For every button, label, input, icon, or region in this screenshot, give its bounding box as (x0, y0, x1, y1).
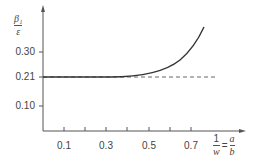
y-label-denominator: ε (16, 27, 20, 37)
x-axis-arrow-icon (239, 129, 246, 133)
y-tick-label: 0.21 (5, 72, 35, 82)
x-label-lhs-numerator: 1 (214, 134, 220, 144)
y-tick-label: 0.30 (5, 47, 35, 57)
x-tick-label: 0.1 (52, 141, 76, 151)
y-ticks (39, 52, 43, 106)
x-label-lhs: 1 w (213, 134, 220, 157)
equals-sign: = (222, 140, 228, 151)
x-label-rhs-numerator: a (230, 134, 235, 144)
x-label-rhs-denominator: b (230, 147, 235, 157)
x-ticks (64, 127, 191, 131)
x-axis-label: 1 w = a b (213, 134, 235, 157)
x-tick-label: 0.3 (94, 141, 118, 151)
y-tick-label: 0.10 (5, 101, 35, 111)
data-curve (43, 27, 204, 77)
y-axis-arrow-icon (41, 5, 45, 12)
x-tick-label: 0.5 (137, 141, 161, 151)
x-label-rhs: a b (230, 134, 235, 157)
x-tick-label: 0.7 (179, 141, 203, 151)
x-label-lhs-denominator: w (213, 147, 220, 157)
y-axis-label: β₁ ε (14, 14, 22, 37)
y-label-numerator: β₁ (14, 14, 22, 24)
